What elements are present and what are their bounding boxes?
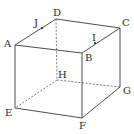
label-C: C — [122, 17, 130, 28]
label-H: H — [58, 69, 67, 80]
edge-BC — [82, 28, 120, 53]
label-A: A — [3, 38, 12, 49]
hidden-edges — [15, 19, 120, 108]
edge-FG — [82, 87, 120, 118]
label-J: J — [33, 17, 38, 28]
vertex-labels: A B C D E F G H I J — [3, 7, 131, 131]
label-D: D — [53, 7, 61, 18]
edge-points — [41, 27, 96, 44]
label-G: G — [123, 85, 131, 96]
edge-AB — [15, 45, 82, 53]
solid-edges — [15, 19, 120, 118]
edge-CD — [56, 19, 120, 28]
cube-diagram: A B C D E F G H I J — [0, 0, 134, 134]
point-J-marker — [41, 27, 43, 29]
edge-HG — [57, 80, 120, 87]
edge-EF — [15, 108, 82, 118]
edge-HE — [15, 80, 57, 108]
label-E: E — [5, 107, 12, 118]
label-F: F — [79, 120, 86, 131]
label-I: I — [92, 32, 96, 43]
label-B: B — [85, 52, 92, 63]
